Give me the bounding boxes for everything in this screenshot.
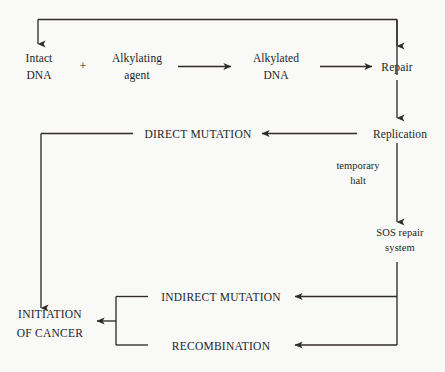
- plus-operator: +: [74, 59, 92, 74]
- node-sos-repair-system: SOS repair system: [358, 225, 442, 255]
- node-indirect-mutation: INDIRECT MUTATION: [146, 289, 296, 306]
- node-alkylating-agent: Alkylating agent: [95, 50, 179, 83]
- node-alkylated-dna: Alkylated DNA: [234, 50, 318, 83]
- node-recombination: RECOMBINATION: [150, 338, 292, 355]
- flowchart-diagram: Intact DNA + Alkylating agent Alkylated …: [0, 0, 445, 372]
- node-replication: Replication: [358, 126, 442, 143]
- node-initiation-of-cancer: INITIATION OF CANCER: [2, 305, 98, 343]
- node-direct-mutation: DIRECT MUTATION: [132, 126, 264, 143]
- node-repair: Repair: [366, 59, 428, 76]
- node-intact-dna: Intact DNA: [6, 50, 72, 83]
- edge-label-temporary-halt: temporary halt: [324, 158, 392, 188]
